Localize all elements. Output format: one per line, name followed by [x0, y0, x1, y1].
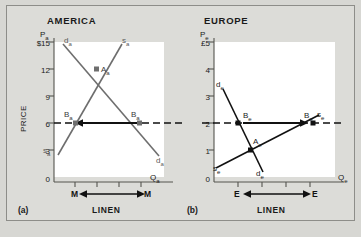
europe-export-span-svg — [7, 6, 356, 222]
panel-letter-europe: (b) — [187, 205, 198, 215]
export-span-arrow-right — [303, 190, 311, 197]
x-axis-title-europe: LINEN — [257, 205, 286, 215]
figure-inner-frame: AMERICA Pa $15 12 9 6 3 0 PRICE — [6, 5, 355, 221]
figure-container: AMERICA Pa $15 12 9 6 3 0 PRICE — [0, 0, 361, 237]
export-span-arrow-left — [243, 190, 251, 197]
